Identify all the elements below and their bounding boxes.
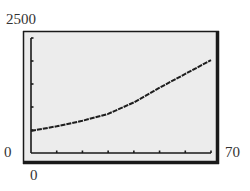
plot-background [23, 31, 218, 162]
x-max-label: 70 [225, 145, 240, 160]
y-max-label: 2500 [6, 12, 36, 27]
y-min-label: 0 [4, 145, 12, 160]
calculator-graph-screen [0, 0, 250, 191]
x-min-label: 0 [30, 168, 38, 183]
